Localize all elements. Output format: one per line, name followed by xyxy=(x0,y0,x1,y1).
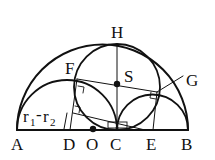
segment-slant xyxy=(73,113,145,130)
bracket-r1-r2 xyxy=(64,113,67,129)
label-r1-sub: 1 xyxy=(30,116,36,128)
point-O xyxy=(90,126,96,132)
label-D: D xyxy=(63,135,75,154)
geometry-diagram: H S F G A D O C E B r 1 - r 2 xyxy=(0,0,215,160)
label-r1: r xyxy=(23,107,29,126)
right-angle-F xyxy=(78,86,84,93)
point-C-dot xyxy=(116,127,119,130)
label-G: G xyxy=(186,71,198,90)
label-r2: r xyxy=(43,107,49,126)
label-E: E xyxy=(146,135,156,154)
label-S: S xyxy=(124,67,133,86)
point-S xyxy=(114,81,120,87)
label-H: H xyxy=(111,23,123,42)
label-F: F xyxy=(65,59,74,78)
label-r2-sub: 2 xyxy=(50,116,56,128)
label-A: A xyxy=(11,135,24,154)
label-B: B xyxy=(181,135,192,154)
right-angle-D xyxy=(75,106,80,113)
label-O: O xyxy=(86,135,98,154)
label-minus: - xyxy=(36,105,42,124)
label-C: C xyxy=(110,135,121,154)
diagram-canvas: H S F G A D O C E B r 1 - r 2 xyxy=(0,0,215,160)
